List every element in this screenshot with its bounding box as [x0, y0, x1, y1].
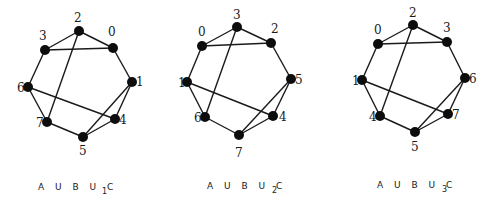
node-label: 7 [235, 146, 243, 160]
node-label: 7 [452, 108, 460, 122]
node-g2-3 [232, 22, 242, 32]
node-label: 6 [469, 72, 477, 86]
node-label: 4 [119, 113, 127, 127]
node-g2-0 [197, 41, 207, 51]
node-label: 6 [194, 111, 202, 125]
edge-g2-0-2 [202, 43, 271, 46]
node-label: 3 [233, 8, 241, 22]
edge-g1-0-1 [113, 48, 132, 82]
node-label: 1 [178, 76, 186, 90]
edge-g2-7-4 [239, 116, 273, 135]
node-g1-2 [74, 26, 84, 36]
caption-subscript-2: 2 [272, 186, 277, 195]
edge-g2-6-7 [205, 117, 239, 135]
edge-g2-0-1 [187, 46, 202, 82]
node-label: 4 [279, 110, 287, 124]
node-g1-0 [108, 43, 118, 53]
edge-g3-0-3 [378, 42, 447, 44]
caption-subscript-3: 3 [442, 185, 447, 194]
node-g3-3 [442, 37, 452, 47]
edge-g2-3-2 [237, 27, 271, 43]
node-g3-5 [410, 127, 420, 137]
node-label: 7 [36, 116, 44, 130]
edge-g1-2-7 [47, 31, 79, 122]
edge-g1-6-4 [28, 87, 115, 119]
caption-subscript-1: 1 [102, 187, 107, 196]
node-label: 0 [374, 23, 382, 37]
node-g2-7 [234, 130, 244, 140]
node-g2-4 [268, 111, 278, 121]
node-label: 1 [352, 74, 360, 88]
node-label: 6 [17, 81, 25, 95]
edge-g2-2-5 [271, 43, 291, 79]
edges-layer [28, 25, 465, 137]
node-g3-2 [408, 20, 418, 30]
node-g1-5 [78, 132, 88, 142]
edge-g3-2-3 [413, 25, 447, 42]
node-g2-2 [266, 38, 276, 48]
node-label: 0 [198, 25, 206, 39]
edge-g2-5-7 [239, 79, 291, 135]
edge-g3-0-1 [362, 44, 378, 80]
edge-g1-3-0 [45, 48, 113, 50]
nodes-layer [23, 20, 470, 142]
node-g3-0 [373, 39, 383, 49]
node-label: 3 [39, 29, 47, 43]
edge-g3-6-5 [415, 78, 465, 132]
node-label: 3 [443, 21, 451, 35]
edge-g3-4-5 [380, 116, 415, 132]
node-g1-3 [40, 45, 50, 55]
edge-g1-5-4 [83, 119, 115, 137]
node-label: 2 [74, 11, 82, 25]
graph-canvas: 203164753021564720316475 A U B U C 1 A U… [0, 0, 490, 207]
edge-g1-3-6 [28, 50, 45, 87]
node-label: 1 [136, 75, 144, 89]
edge-g3-1-7 [362, 80, 448, 114]
edge-g3-2-4 [380, 25, 413, 116]
edge-g2-3-6 [205, 27, 237, 117]
node-label: 5 [411, 140, 419, 154]
edge-g3-3-6 [447, 42, 465, 78]
node-label: 5 [295, 73, 303, 87]
node-label: 2 [409, 6, 417, 20]
edge-g1-7-5 [47, 122, 83, 137]
node-label: 0 [108, 25, 116, 39]
node-label: 5 [79, 144, 87, 158]
edge-g3-5-7 [415, 114, 448, 132]
node-label: 4 [369, 110, 377, 124]
node-label: 2 [271, 22, 279, 36]
